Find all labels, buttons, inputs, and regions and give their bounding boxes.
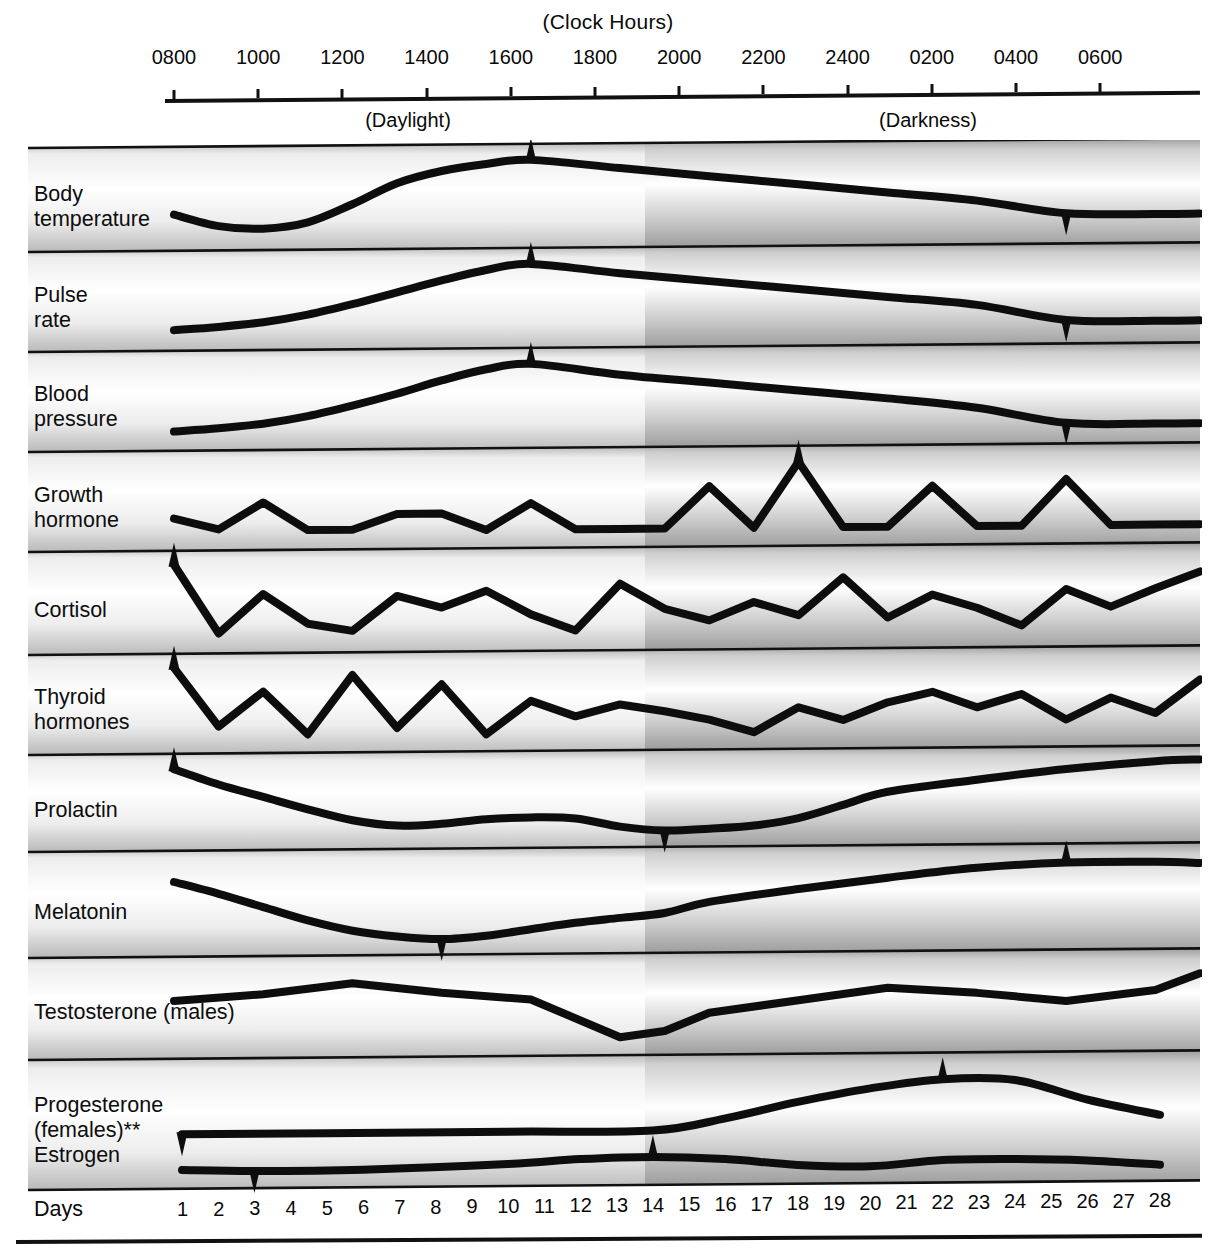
row-label-melatonin: Melatonin [34, 900, 127, 925]
hour-tick-labels: 0800100012001400160018002000220024000200… [0, 46, 1216, 74]
day-number-labels: 1234567891011121314151617181920212223242… [0, 1196, 1216, 1226]
day-label-9: 9 [467, 1195, 478, 1218]
row-label-blood-pressure: Blood pressure [34, 382, 118, 432]
day-label-21: 21 [895, 1191, 917, 1214]
hour-label-1400: 1400 [404, 46, 449, 69]
clock-hours-title: (Clock Hours) [0, 10, 1216, 34]
hour-label-0200: 0200 [910, 46, 955, 69]
day-label-5: 5 [322, 1197, 333, 1220]
band-darkness-2 [645, 342, 1200, 447]
day-label-3: 3 [249, 1197, 260, 1220]
hour-label-2400: 2400 [825, 46, 870, 69]
axis-tick-2200 [762, 85, 765, 94]
axis-tick-1200 [341, 89, 344, 98]
band-daylight-4 [28, 547, 645, 655]
band-darkness-1 [645, 242, 1200, 347]
hour-label-2000: 2000 [657, 46, 702, 69]
hour-label-1600: 1600 [489, 46, 534, 69]
axis-tick-0400 [1015, 83, 1018, 92]
day-label-12: 12 [570, 1194, 592, 1217]
axis-tick-2000 [678, 86, 681, 95]
day-label-10: 10 [497, 1195, 519, 1218]
bottom-rule [16, 1234, 1202, 1244]
row-label-thyroid-hormones: Thyroid hormones [34, 685, 130, 735]
day-label-20: 20 [859, 1192, 881, 1215]
hour-label-0800: 0800 [152, 46, 197, 69]
hour-label-1800: 1800 [573, 46, 618, 69]
plot-area: Body temperaturePulse rateBlood pressure… [14, 140, 1202, 1195]
day-label-8: 8 [430, 1196, 441, 1219]
hour-label-1200: 1200 [320, 46, 365, 69]
day-label-1: 1 [177, 1198, 188, 1221]
row-label-growth-hormone: Growth hormone [34, 483, 119, 533]
row-label-pulse-rate: Pulse rate [34, 283, 88, 333]
band-daylight-3 [28, 447, 645, 552]
day-label-6: 6 [358, 1196, 369, 1219]
chart-svg [14, 140, 1202, 1195]
day-label-24: 24 [1004, 1190, 1026, 1213]
axis-tick-1400 [425, 88, 428, 97]
axis-tick-1600 [509, 87, 512, 96]
row-label-progesterone: Progesterone (females)** [34, 1093, 163, 1143]
day-label-25: 25 [1040, 1190, 1062, 1213]
row-label-estrogen: Estrogen [34, 1143, 120, 1168]
hour-label-0600: 0600 [1078, 46, 1123, 69]
day-label-15: 15 [678, 1193, 700, 1216]
hour-label-1000: 1000 [236, 46, 281, 69]
circadian-rhythm-figure: (Clock Hours) 08001000120014001600180020… [0, 0, 1216, 1252]
day-label-23: 23 [968, 1191, 990, 1214]
day-label-7: 7 [394, 1196, 405, 1219]
day-label-19: 19 [823, 1192, 845, 1215]
axis-line [165, 91, 1200, 103]
day-label-26: 26 [1076, 1190, 1098, 1213]
day-label-14: 14 [642, 1194, 664, 1217]
hour-label-0400: 0400 [994, 46, 1039, 69]
axis-tick-1000 [257, 89, 260, 98]
top-time-axis [0, 88, 1216, 108]
day-label-27: 27 [1113, 1190, 1135, 1213]
axis-tick-1800 [594, 87, 597, 96]
day-label-4: 4 [286, 1197, 297, 1220]
axis-tick-0200 [930, 84, 933, 93]
axis-tick-0800 [173, 90, 176, 99]
row-label-prolactin: Prolactin [34, 798, 118, 823]
band-daylight-6 [28, 750, 645, 852]
day-label-13: 13 [606, 1194, 628, 1217]
day-label-22: 22 [932, 1191, 954, 1214]
row-label-cortisol: Cortisol [34, 598, 107, 623]
row-label-testosterone: Testosterone (males) [34, 1000, 235, 1025]
darkness-label: (Darkness) [879, 109, 977, 132]
daylight-label: (Daylight) [365, 109, 451, 132]
day-label-11: 11 [534, 1195, 555, 1218]
band-darkness-8 [645, 948, 1200, 1055]
day-label-17: 17 [751, 1193, 773, 1216]
day-label-2: 2 [213, 1198, 224, 1221]
axis-tick-2400 [846, 85, 849, 94]
day-label-18: 18 [787, 1192, 809, 1215]
axis-tick-0600 [1099, 83, 1102, 92]
day-label-28: 28 [1149, 1189, 1171, 1212]
day-label-16: 16 [714, 1193, 736, 1216]
row-label-body-temperature: Body temperature [34, 182, 150, 232]
hour-label-2200: 2200 [741, 46, 786, 69]
